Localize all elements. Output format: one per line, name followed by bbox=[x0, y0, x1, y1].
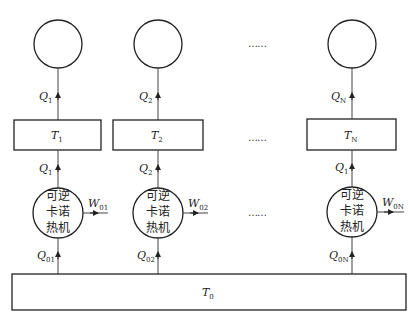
svg-text:Q2: Q2 bbox=[139, 162, 153, 177]
ellipsis-middle: …… bbox=[248, 132, 266, 143]
ellipsis-bottom: …… bbox=[248, 207, 266, 218]
svg-text:可逆: 可逆 bbox=[340, 187, 364, 202]
svg-text:可逆: 可逆 bbox=[46, 188, 70, 203]
svg-text:可逆: 可逆 bbox=[146, 188, 170, 203]
svg-text:热机: 热机 bbox=[46, 221, 70, 235]
svg-text:QN: QN bbox=[331, 90, 346, 105]
svg-text:W0N: W0N bbox=[382, 196, 404, 211]
svg-text:热机: 热机 bbox=[340, 220, 364, 234]
svg-text:T1: T1 bbox=[51, 129, 63, 144]
svg-text:卡诺: 卡诺 bbox=[46, 205, 70, 219]
svg-text:Q1: Q1 bbox=[39, 90, 53, 105]
top-body-N bbox=[328, 20, 376, 68]
svg-text:Q1: Q1 bbox=[335, 161, 349, 176]
svg-text:Q2: Q2 bbox=[139, 90, 153, 105]
svg-text:Q0N: Q0N bbox=[329, 249, 349, 264]
reservoir-T0-label: T0 bbox=[202, 286, 214, 301]
column-2: Q2 T2 Q2 可逆 卡诺 热机 W02 Q02 bbox=[113, 20, 208, 274]
svg-text:TN: TN bbox=[344, 129, 357, 144]
svg-text:Q1: Q1 bbox=[39, 162, 53, 177]
top-body-2 bbox=[134, 20, 182, 68]
ellipsis-top: …… bbox=[248, 38, 266, 49]
reservoir-TN bbox=[307, 119, 396, 150]
svg-text:W01: W01 bbox=[88, 197, 108, 212]
svg-text:T2: T2 bbox=[151, 129, 163, 144]
svg-text:卡诺: 卡诺 bbox=[340, 204, 364, 218]
top-body-1 bbox=[34, 20, 82, 68]
svg-text:Q01: Q01 bbox=[37, 249, 55, 264]
svg-text:W02: W02 bbox=[188, 197, 208, 212]
column-1: Q1 T1 Q1 可逆 卡诺 热机 W01 Q01 bbox=[14, 20, 108, 274]
svg-text:Q02: Q02 bbox=[137, 249, 155, 264]
carnot-engine-diagram: Q1 T1 Q1 可逆 卡诺 热机 W01 Q01 Q2 T2 Q2 可逆 卡诺… bbox=[0, 0, 414, 317]
svg-text:热机: 热机 bbox=[146, 221, 170, 235]
svg-text:卡诺: 卡诺 bbox=[146, 205, 170, 219]
column-N: QN TN Q1 可逆 卡诺 热机 W0N Q0N bbox=[307, 20, 404, 274]
